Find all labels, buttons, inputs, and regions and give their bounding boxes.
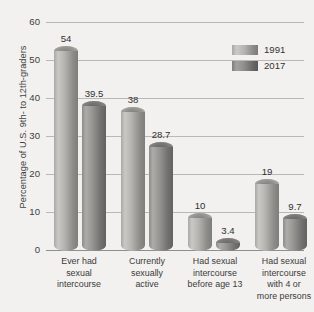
category-label-0-line-1: sexual bbox=[44, 268, 114, 280]
bar-body bbox=[82, 106, 106, 251]
bar-group-ever-had-sexual-intercourse: 54 39.5 bbox=[54, 22, 116, 251]
y-tick-50: 50 bbox=[12, 55, 40, 65]
bar-1991-currently-sexually-active bbox=[121, 107, 145, 251]
y-tick-60: 60 bbox=[12, 17, 40, 27]
value-label-2017-0: 39.5 bbox=[72, 89, 116, 99]
value-label-1991-3: 19 bbox=[245, 167, 289, 177]
category-label-2-line-1: intercourse bbox=[177, 268, 253, 280]
category-label-1-line-2: active bbox=[112, 279, 182, 291]
category-label-1: Currently sexually active bbox=[112, 256, 182, 291]
y-tick-30: 30 bbox=[12, 131, 40, 141]
value-label-2017-3: 9.7 bbox=[273, 202, 314, 212]
category-label-1-line-0: Currently bbox=[112, 256, 182, 268]
y-axis-title: Percentage of U.S. 9th- to 12th-graders bbox=[18, 22, 28, 232]
category-label-3-line-3: more persons bbox=[246, 291, 314, 303]
legend-item-1991[interactable]: 1991 bbox=[232, 43, 308, 56]
bar-body bbox=[216, 243, 240, 251]
value-label-1991-2: 10 bbox=[178, 201, 222, 211]
bar-body bbox=[255, 184, 279, 251]
value-label-1991-1: 38 bbox=[111, 95, 155, 105]
category-label-3-line-0: Had sexual bbox=[246, 256, 314, 268]
y-tick-0: 0 bbox=[12, 245, 40, 255]
bar-2017-four-or-more-persons bbox=[283, 214, 307, 251]
bar-2017-before-age-13 bbox=[216, 238, 240, 251]
category-label-3-line-2: with 4 or bbox=[246, 279, 314, 291]
bar-chart: Percentage of U.S. 9th- to 12th-graders … bbox=[0, 0, 314, 312]
y-tick-10: 10 bbox=[12, 207, 40, 217]
y-tick-20: 20 bbox=[12, 169, 40, 179]
bar-2017-ever-had-sexual-intercourse bbox=[82, 101, 106, 251]
value-label-2017-2: 3.4 bbox=[206, 226, 250, 236]
category-label-3-line-1: intercourse bbox=[246, 268, 314, 280]
legend: 1991 2017 bbox=[232, 43, 308, 75]
bar-2017-currently-sexually-active bbox=[149, 142, 173, 251]
bar-body bbox=[54, 51, 78, 251]
value-label-2017-1: 28.7 bbox=[139, 130, 183, 140]
legend-swatch-2017-icon bbox=[232, 61, 258, 71]
category-label-0: Ever had sexual intercourse bbox=[44, 256, 114, 291]
category-label-2-line-2: before age 13 bbox=[177, 279, 253, 291]
category-label-0-line-0: Ever had bbox=[44, 256, 114, 268]
x-axis-category-labels: Ever had sexual intercourse Currently se… bbox=[46, 256, 304, 312]
bar-body bbox=[283, 219, 307, 251]
legend-label-1991: 1991 bbox=[264, 44, 285, 55]
bar-group-currently-sexually-active: 38 28.7 bbox=[121, 22, 183, 251]
legend-swatch-1991-icon bbox=[232, 45, 258, 55]
category-label-1-line-1: sexually bbox=[112, 268, 182, 280]
category-label-3: Had sexual intercourse with 4 or more pe… bbox=[246, 256, 314, 302]
legend-item-2017[interactable]: 2017 bbox=[232, 59, 308, 72]
category-label-2-line-0: Had sexual bbox=[177, 256, 253, 268]
bar-1991-ever-had-sexual-intercourse bbox=[54, 46, 78, 251]
y-tick-40: 40 bbox=[12, 93, 40, 103]
bar-1991-four-or-more-persons bbox=[255, 179, 279, 251]
legend-label-2017: 2017 bbox=[264, 60, 285, 71]
value-label-1991-0: 54 bbox=[44, 34, 88, 44]
category-label-0-line-2: intercourse bbox=[44, 279, 114, 291]
bar-body bbox=[149, 147, 173, 251]
category-label-2: Had sexual intercourse before age 13 bbox=[177, 256, 253, 291]
